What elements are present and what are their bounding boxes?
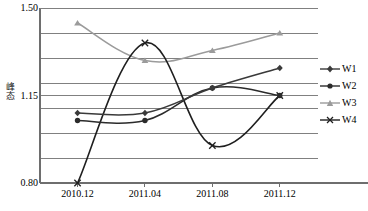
diamond-marker-icon [75,110,81,116]
diamond-marker-icon [209,85,215,91]
circle-marker-icon [75,118,80,123]
axis-lines [40,8,368,187]
triangle-marker-icon [320,97,340,109]
diamond-marker-icon [142,110,148,116]
series-w2 [75,85,283,123]
circle-marker-icon [142,118,147,123]
legend-label: W4 [342,114,356,125]
triangle-marker-icon [74,20,81,26]
line-chart: 峰态 1.50 1.15 0.80 2010.12 2011.04 2011.0… [0,0,368,211]
y-axis-tick-labels: 1.50 1.15 0.80 [4,0,38,211]
legend-item-w1[interactable]: W1 [320,60,368,77]
cross-marker-icon [320,114,340,126]
y-tick-label: 0.80 [10,178,38,188]
y-tick-label: 1.15 [10,91,38,101]
chart-legend: W1 W2 W3 [320,60,368,128]
diamond-marker-icon [320,63,340,75]
y-tick-label: 1.50 [10,3,38,13]
legend-label: W3 [342,97,356,108]
legend-item-w3[interactable]: W3 [320,94,368,111]
legend-label: W1 [342,63,356,74]
diamond-marker-icon [277,65,283,71]
circle-marker-icon [277,93,282,98]
legend-item-w2[interactable]: W2 [320,77,368,94]
legend-label: W2 [342,80,356,91]
legend-item-w4[interactable]: W4 [320,111,368,128]
series-w3 [74,20,283,63]
series-w4 [74,40,283,186]
chart-plot-area [0,0,368,211]
circle-marker-icon [320,80,340,92]
